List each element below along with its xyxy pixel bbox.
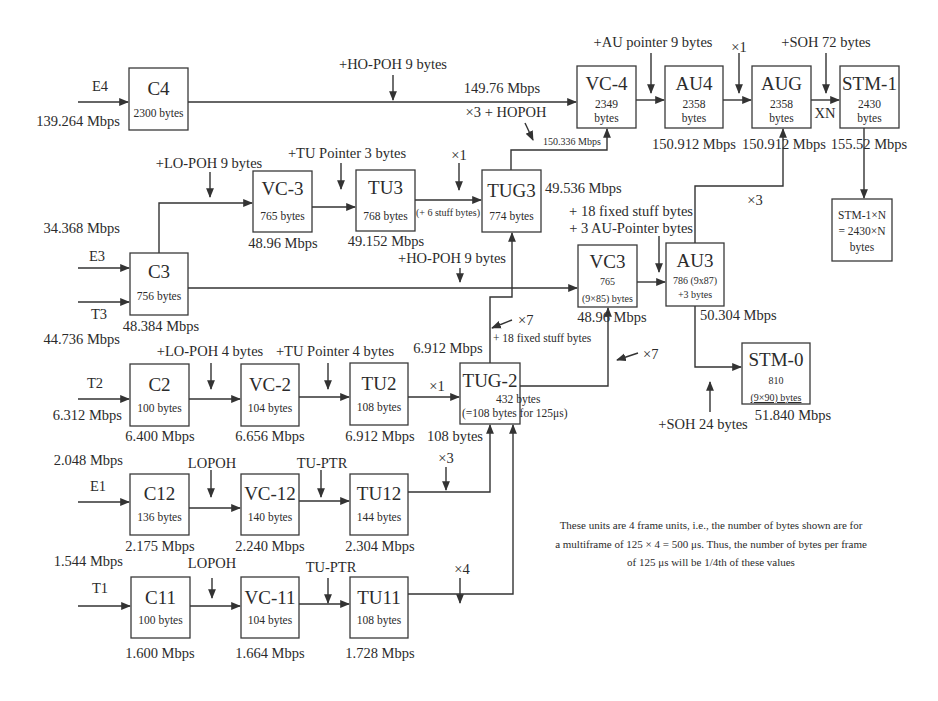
annotation-tu-ptr4: +TU Pointer 4 bytes <box>276 343 394 359</box>
block-vc3-lower: VC3 765 (9×85) bytes <box>578 245 637 307</box>
x7-vc3-arrow <box>617 353 638 360</box>
block-size-unit: bytes <box>857 112 882 125</box>
block-size-unit: bytes <box>769 112 794 125</box>
annotation-stuff18-tug2: + 18 fixed stuff bytes <box>493 332 592 345</box>
annotation-tu-ptr3: +TU Pointer 3 bytes <box>288 145 406 161</box>
block-stm1: STM-1 2430 bytes <box>840 66 899 128</box>
rate-tu3: 49.152 Mbps <box>348 233 425 249</box>
annotation-tuptr-e1: TU-PTR <box>297 455 348 471</box>
annotation-stuff6: (+ 6 stuff bytes) <box>416 207 480 219</box>
block-size: 432 bytes <box>496 393 541 406</box>
block-title: TUG3 <box>487 180 536 201</box>
block-size-unit: bytes <box>682 112 707 125</box>
block-size: 2358 <box>683 98 706 110</box>
block-c12: C12 136 bytes <box>130 474 189 535</box>
block-tu12: TU12 144 bytes <box>350 474 408 535</box>
annotation-au-pointer: +AU pointer 9 bytes <box>594 34 713 50</box>
rate-au3: 50.304 Mbps <box>700 307 777 323</box>
input-e1-rate: 2.048 Mbps <box>54 452 124 468</box>
input-t3-name: T3 <box>91 306 107 322</box>
block-vc12: VC-12 140 bytes <box>241 474 299 535</box>
block-tu11: TU11 108 bytes <box>350 577 408 638</box>
block-size: 108 bytes <box>357 614 402 627</box>
block-title: AU3 <box>677 250 714 271</box>
block-title: C12 <box>144 483 176 504</box>
c3-to-vc3-arrow <box>159 203 252 253</box>
rate-vc3-upper: 48.96 Mbps <box>248 235 318 251</box>
block-vc4: VC-4 2349 bytes <box>577 66 636 128</box>
rate-vc2: 6.656 Mbps <box>235 428 305 444</box>
block-title: TU2 <box>362 373 397 394</box>
annotation-lopoh-e1: LOPOH <box>188 455 237 471</box>
block-title: AU4 <box>676 73 713 94</box>
annotation-lo-poh4: +LO-POH 4 bytes <box>157 343 264 359</box>
block-tu3: TU3 768 bytes <box>356 170 415 231</box>
footnote: These units are 4 frame units, i.e., the… <box>555 519 867 568</box>
rate-stm1: 155.52 Mbps <box>831 136 908 152</box>
sdh-multiplexing-diagram: C4 2300 bytes VC-4 2349 bytes AU4 2358 b… <box>0 0 938 701</box>
block-size: 2349 <box>595 98 618 110</box>
block-tu2: TU2 108 bytes <box>350 363 408 425</box>
block-stm0: STM-0 810 (9×90) bytes <box>742 343 810 404</box>
annotation-xn: XN <box>815 105 836 121</box>
input-e3-name: E3 <box>89 248 105 264</box>
input-labels: E4 139.264 Mbps 34.368 Mbps E3 T3 44.736… <box>36 78 123 596</box>
block-vc2: VC-2 104 bytes <box>241 364 299 426</box>
note-line-3: of 125 μs will be 1/4th of these values <box>627 556 795 568</box>
input-e4-rate: 139.264 Mbps <box>36 113 120 129</box>
block-size: 2430 <box>858 98 881 110</box>
input-t2-name: T2 <box>87 375 103 391</box>
block-size: 104 bytes <box>248 402 293 415</box>
rate-vc12: 2.240 Mbps <box>235 538 305 554</box>
note-line-1: These units are 4 frame units, i.e., the… <box>560 519 863 531</box>
block-c2: C2 100 bytes <box>130 364 189 426</box>
block-title: VC-4 <box>585 73 628 94</box>
input-e3-rate: 34.368 Mbps <box>43 220 120 236</box>
block-size: 100 bytes <box>138 614 183 627</box>
block-title: VC-11 <box>244 587 295 608</box>
annotation-x1-tug2: ×1 <box>429 378 444 394</box>
annotation-x7-tug3: ×7 <box>518 312 533 328</box>
block-title: VC-12 <box>244 483 296 504</box>
block-tug2: TUG-2 432 bytes (=108 bytes for 125μs) <box>460 363 568 424</box>
block-title: VC3 <box>590 251 626 272</box>
block-size: 786 (9x87) <box>673 275 717 287</box>
x7-tug3-arrow <box>492 320 512 328</box>
block-size: 104 bytes <box>248 614 293 627</box>
annotation-x3-au3: ×3 <box>747 192 762 208</box>
tug2-bytes-label: 108 bytes <box>427 428 483 444</box>
block-au3: AU3 786 (9x87) +3 bytes <box>666 243 724 306</box>
block-size: 2358 <box>770 98 793 110</box>
block-title: VC-2 <box>249 374 291 395</box>
block-vc3-upper: VC-3 765 bytes <box>253 171 312 232</box>
annotation-x3-hopoh: ×3 + HOPOH <box>466 104 547 120</box>
annotation-x7-vc3: ×7 <box>643 346 658 362</box>
block-size: 140 bytes <box>248 511 293 524</box>
block-size: 144 bytes <box>357 511 402 524</box>
block-tug3: TUG3 774 bytes <box>482 170 541 232</box>
x3-hopoh-arrow <box>525 123 533 140</box>
rate-vc11: 1.664 Mbps <box>235 645 305 661</box>
block-size-extra: +3 bytes <box>678 289 712 300</box>
rate-au4: 150.912 Mbps <box>652 136 736 152</box>
input-e1-name: E1 <box>90 478 106 494</box>
rate-vc4-input: 149.76 Mbps <box>464 80 541 96</box>
block-size-unit: bytes <box>594 112 619 125</box>
rate-tu12: 2.304 Mbps <box>345 538 415 554</box>
annotation-x1-tug3: ×1 <box>451 147 466 163</box>
input-t2-rate: 6.312 Mbps <box>53 407 123 423</box>
annotation-tuptr-t1: TU-PTR <box>306 559 357 575</box>
annotation-stuff18-au3: + 18 fixed stuff bytes <box>569 203 693 219</box>
annotation-x3-tu12: ×3 <box>438 450 453 466</box>
block-size: 756 bytes <box>137 290 182 303</box>
rate-c12: 2.175 Mbps <box>125 538 195 554</box>
block-stm1-n: STM-1×N = 2430×N bytes <box>832 199 892 261</box>
block-title: TU11 <box>357 587 401 608</box>
annotation-lo-poh9: +LO-POH 9 bytes <box>156 155 263 171</box>
block-title: C11 <box>145 587 176 608</box>
block-size-note: (=108 bytes for 125μs) <box>462 407 568 420</box>
block-size-unit: (9×85) bytes <box>582 293 633 305</box>
block-au4: AU4 2358 bytes <box>665 66 723 128</box>
annotation-x1-aug: ×1 <box>731 39 746 55</box>
annotation-ho-poh-c3: +HO-POH 9 bytes <box>398 250 506 266</box>
